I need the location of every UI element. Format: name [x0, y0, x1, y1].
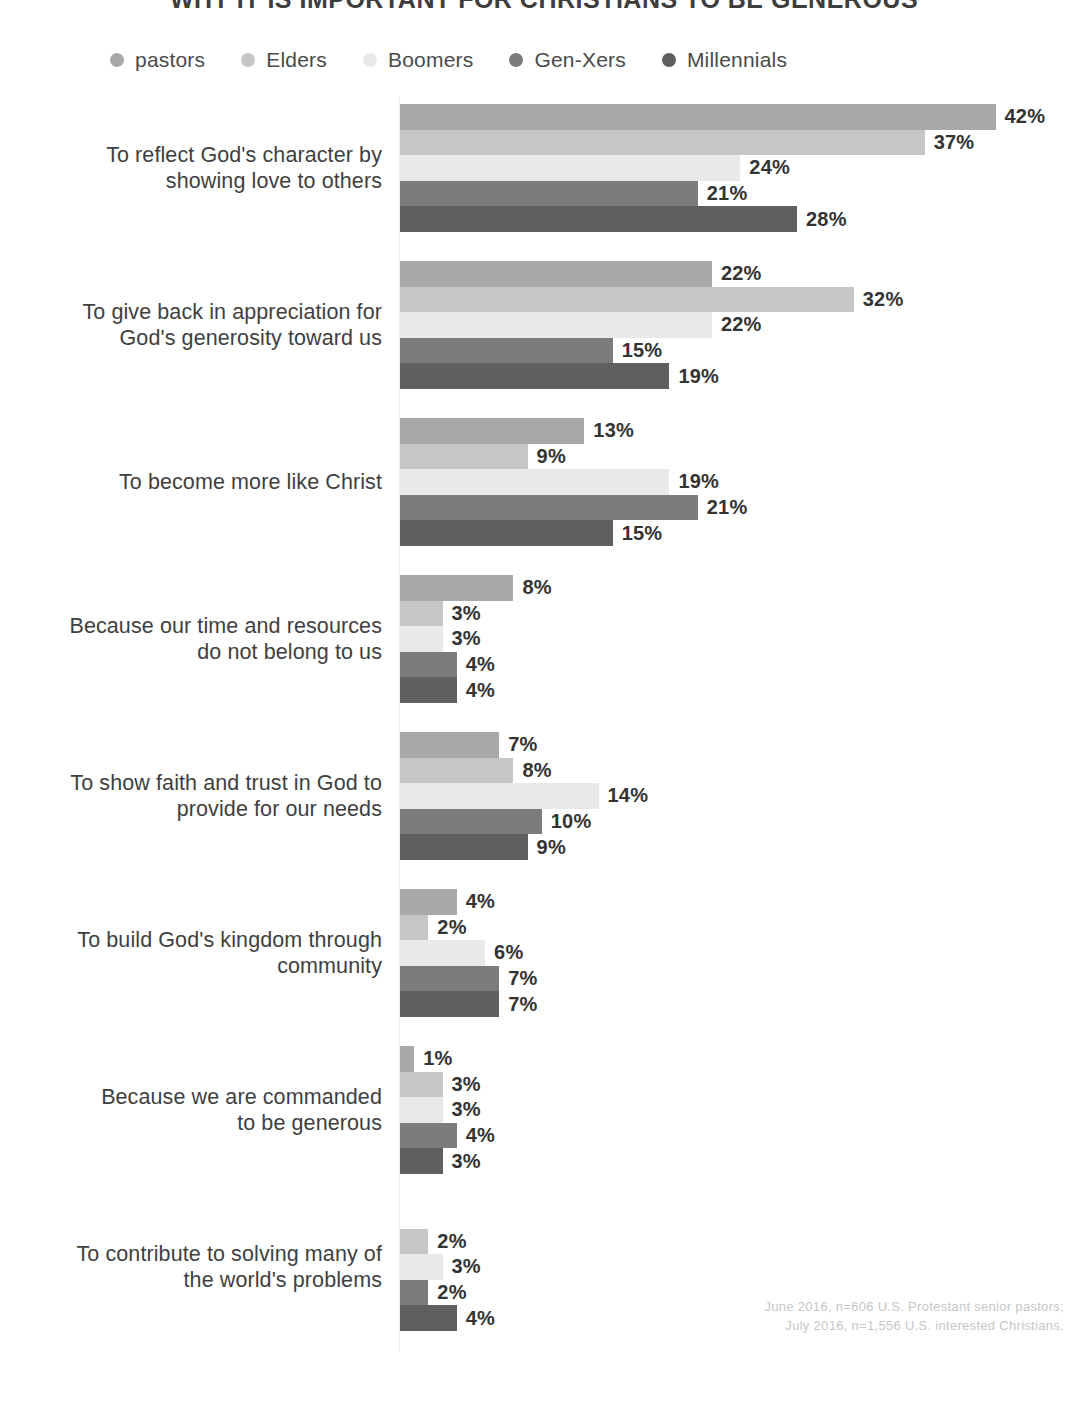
- legend-swatch-icon: [509, 53, 523, 67]
- bar-pastors[interactable]: [400, 1046, 414, 1072]
- bar-boomers[interactable]: [400, 1097, 443, 1123]
- legend-item-pastors[interactable]: pastors: [110, 48, 205, 72]
- bar-row[interactable]: 10%: [400, 809, 1088, 835]
- bar-row[interactable]: 7%: [400, 732, 1088, 758]
- bar-value-label: 21%: [707, 496, 748, 519]
- bar-millennials[interactable]: [400, 677, 457, 703]
- bar-elders[interactable]: [400, 1072, 443, 1098]
- bar-row[interactable]: 4%: [400, 677, 1088, 703]
- bar-gen-xers[interactable]: [400, 181, 698, 207]
- bar-elders[interactable]: [400, 1229, 428, 1255]
- bar-gen-xers[interactable]: [400, 495, 698, 521]
- bar-elders[interactable]: [400, 915, 428, 941]
- bar-value-label: 4%: [466, 679, 495, 702]
- bar-row[interactable]: 8%: [400, 758, 1088, 784]
- bar-gen-xers[interactable]: [400, 1123, 457, 1149]
- bar-boomers[interactable]: [400, 469, 669, 495]
- bar-row[interactable]: 3%: [400, 1097, 1088, 1123]
- bar-group: To become more like Christ13%9%19%21%15%: [0, 418, 1088, 546]
- bar-pastors[interactable]: [400, 418, 584, 444]
- bar-row[interactable]: 21%: [400, 181, 1088, 207]
- bar-row[interactable]: 2%: [400, 1229, 1088, 1255]
- bar-row[interactable]: 2%: [400, 915, 1088, 941]
- bar-gen-xers[interactable]: [400, 338, 613, 364]
- legend-item-boomers[interactable]: Boomers: [363, 48, 473, 72]
- bar-row[interactable]: 4%: [400, 1123, 1088, 1149]
- bar-row[interactable]: 32%: [400, 287, 1088, 313]
- bar-gen-xers[interactable]: [400, 652, 457, 678]
- bar-row[interactable]: 3%: [400, 626, 1088, 652]
- bar-row[interactable]: 22%: [400, 261, 1088, 287]
- bar-row[interactable]: [400, 1203, 1088, 1229]
- bar-millennials[interactable]: [400, 834, 528, 860]
- bar-row[interactable]: 6%: [400, 940, 1088, 966]
- bar-row[interactable]: 3%: [400, 1148, 1088, 1174]
- bar-gen-xers[interactable]: [400, 1280, 428, 1306]
- bar-elders[interactable]: [400, 130, 925, 156]
- bar-row[interactable]: 19%: [400, 363, 1088, 389]
- bar-row[interactable]: 3%: [400, 1072, 1088, 1098]
- bar-elders[interactable]: [400, 444, 528, 470]
- bar-row[interactable]: 1%: [400, 1046, 1088, 1072]
- bar-elders[interactable]: [400, 601, 443, 627]
- category-label: To reflect God's character byshowing lov…: [2, 142, 382, 194]
- bar-value-label: 9%: [537, 836, 566, 859]
- bar-row[interactable]: 15%: [400, 338, 1088, 364]
- bar-boomers[interactable]: [400, 312, 712, 338]
- bar-millennials[interactable]: [400, 1305, 457, 1331]
- legend-swatch-icon: [363, 53, 377, 67]
- bar-row[interactable]: 14%: [400, 783, 1088, 809]
- bar-group: Because we are commandedto be generous1%…: [0, 1046, 1088, 1174]
- legend-swatch-icon: [110, 53, 124, 67]
- bar-row[interactable]: 8%: [400, 575, 1088, 601]
- bar-millennials[interactable]: [400, 1148, 443, 1174]
- legend-swatch-icon: [241, 53, 255, 67]
- bar-row[interactable]: 9%: [400, 444, 1088, 470]
- bar-elders[interactable]: [400, 758, 513, 784]
- bar-row[interactable]: 7%: [400, 991, 1088, 1017]
- bar-group-bars: 13%9%19%21%15%: [400, 418, 1088, 546]
- bar-row[interactable]: 7%: [400, 966, 1088, 992]
- legend-item-label: Boomers: [388, 48, 473, 72]
- legend-item-label: Millennials: [687, 48, 787, 72]
- bar-value-label: 15%: [622, 522, 663, 545]
- bar-group-bars: 8%3%3%4%4%: [400, 575, 1088, 703]
- bar-row[interactable]: 4%: [400, 889, 1088, 915]
- bar-pastors[interactable]: [400, 732, 499, 758]
- bar-row[interactable]: 3%: [400, 1254, 1088, 1280]
- bar-pastors[interactable]: [400, 104, 996, 130]
- bar-boomers[interactable]: [400, 626, 443, 652]
- bar-gen-xers[interactable]: [400, 966, 499, 992]
- bar-row[interactable]: 15%: [400, 520, 1088, 546]
- bar-millennials[interactable]: [400, 991, 499, 1017]
- legend-item-millennials[interactable]: Millennials: [662, 48, 787, 72]
- bar-row[interactable]: 28%: [400, 206, 1088, 232]
- bar-pastors[interactable]: [400, 575, 513, 601]
- bar-boomers[interactable]: [400, 1254, 443, 1280]
- legend-item-elders[interactable]: Elders: [241, 48, 327, 72]
- bar-row[interactable]: 24%: [400, 155, 1088, 181]
- bar-gen-xers[interactable]: [400, 809, 542, 835]
- bar-row[interactable]: 13%: [400, 418, 1088, 444]
- bar-pastors[interactable]: [400, 889, 457, 915]
- bar-millennials[interactable]: [400, 206, 797, 232]
- bar-value-label: 32%: [863, 288, 904, 311]
- bar-row[interactable]: 22%: [400, 312, 1088, 338]
- bar-millennials[interactable]: [400, 363, 669, 389]
- bar-row[interactable]: 19%: [400, 469, 1088, 495]
- legend-item-gen-xers[interactable]: Gen-Xers: [509, 48, 625, 72]
- bar-value-label: 3%: [452, 1073, 481, 1096]
- bar-row[interactable]: 9%: [400, 834, 1088, 860]
- bar-value-label: 1%: [423, 1047, 452, 1070]
- bar-boomers[interactable]: [400, 783, 599, 809]
- bar-row[interactable]: 42%: [400, 104, 1088, 130]
- bar-elders[interactable]: [400, 287, 854, 313]
- bar-boomers[interactable]: [400, 155, 740, 181]
- bar-boomers[interactable]: [400, 940, 485, 966]
- bar-millennials[interactable]: [400, 520, 613, 546]
- bar-row[interactable]: 3%: [400, 601, 1088, 627]
- bar-row[interactable]: 21%: [400, 495, 1088, 521]
- bar-pastors[interactable]: [400, 261, 712, 287]
- bar-row[interactable]: 37%: [400, 130, 1088, 156]
- bar-row[interactable]: 4%: [400, 652, 1088, 678]
